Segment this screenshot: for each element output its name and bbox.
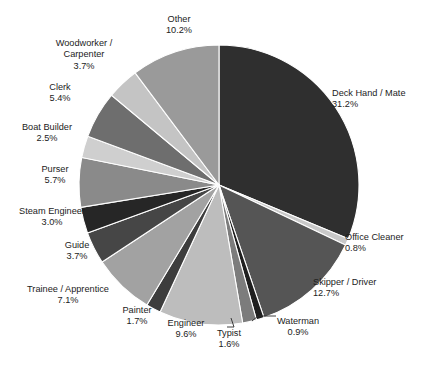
pie-label-clerk: Clerk5.4%: [38, 82, 82, 105]
pie-label-office-cleaner: Office Cleaner0.8%: [345, 232, 423, 255]
pie-label-steam-engineer: Steam Engineer3.0%: [8, 206, 96, 229]
pie-label-percent: 31.2%: [332, 99, 422, 110]
pie-label-trainee-apprentice: Trainee / Apprentice7.1%: [20, 284, 116, 307]
pie-label-name: Boat Builder: [14, 122, 80, 133]
pie-label-waterman: Waterman0.9%: [268, 316, 328, 339]
pie-label-percent: 3.7%: [55, 251, 99, 262]
pie-label-name: Typist: [208, 328, 250, 339]
pie-label-boat-builder: Boat Builder2.5%: [14, 122, 80, 145]
pie-label-engineer: Engineer9.6%: [160, 318, 212, 341]
pie-label-name: Steam Engineer: [8, 206, 96, 217]
pie-label-other: Other10.2%: [152, 14, 206, 37]
pie-label-name: Trainee / Apprentice: [20, 284, 116, 295]
pie-label-percent: 3.7%: [46, 61, 122, 72]
pie-label-name: Guide: [55, 240, 99, 251]
pie-label-percent: 1.6%: [208, 339, 250, 350]
pie-label-name: Woodworker / Carpenter: [46, 38, 122, 61]
pie-label-painter: Painter1.7%: [114, 305, 160, 328]
pie-label-name: Office Cleaner: [345, 232, 423, 243]
pie-label-deck-hand-mate: Deck Hand / Mate31.2%: [332, 88, 422, 111]
pie-label-percent: 12.7%: [313, 288, 395, 299]
pie-label-name: Deck Hand / Mate: [332, 88, 422, 99]
pie-label-percent: 1.7%: [114, 316, 160, 327]
pie-label-percent: 0.9%: [268, 327, 328, 338]
pie-label-percent: 5.4%: [38, 93, 82, 104]
pie-label-name: Other: [152, 14, 206, 25]
pie-label-name: Clerk: [38, 82, 82, 93]
pie-label-typist: Typist1.6%: [208, 328, 250, 351]
pie-label-percent: 10.2%: [152, 25, 206, 36]
pie-label-purser: Purser5.7%: [30, 164, 80, 187]
pie-chart-figure: Deck Hand / Mate31.2%Office Cleaner0.8%S…: [0, 0, 423, 372]
pie-label-name: Skipper / Driver: [313, 277, 395, 288]
pie-label-percent: 3.0%: [8, 217, 96, 228]
pie-label-skipper-driver: Skipper / Driver12.7%: [313, 277, 395, 300]
pie-label-name: Waterman: [268, 316, 328, 327]
pie-label-percent: 9.6%: [160, 329, 212, 340]
pie-label-name: Engineer: [160, 318, 212, 329]
pie-label-percent: 5.7%: [30, 175, 80, 186]
pie-label-name: Purser: [30, 164, 80, 175]
pie-label-percent: 2.5%: [14, 133, 80, 144]
pie-label-guide: Guide3.7%: [55, 240, 99, 263]
pie-label-percent: 0.8%: [345, 243, 423, 254]
pie-label-name: Painter: [114, 305, 160, 316]
pie-label-woodworker-carpenter: Woodworker / Carpenter3.7%: [46, 38, 122, 72]
pie-label-percent: 7.1%: [20, 295, 116, 306]
